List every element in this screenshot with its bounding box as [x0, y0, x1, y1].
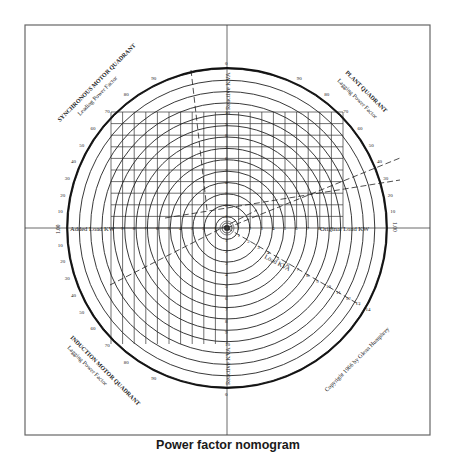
pf-tick-top-right: 60 [358, 126, 364, 131]
pf-tick-top-right: 40 [377, 159, 383, 164]
pf-tick-top-left: 70 [105, 109, 111, 114]
vertical-tick: 9 [225, 330, 228, 335]
center-target [224, 225, 230, 231]
right-kw-tick: 1 [237, 226, 240, 231]
left-axis-label: Added Load KW [70, 225, 116, 232]
pf-tick-bottom-left: 50 [79, 310, 85, 315]
pf-tick-top-right: 70 [343, 109, 349, 114]
pf-tick-top-left: 40 [71, 159, 77, 164]
vertical-tick: 3 [225, 261, 228, 266]
right-axis-label: Original Load KW [320, 225, 370, 232]
left-axis-end: 1.00 [55, 224, 61, 234]
pf-tick-top-right: 10 [390, 209, 396, 214]
vertical-tick: 8 [225, 319, 228, 324]
vertical-tick: 10 [225, 342, 231, 347]
pf-tick-top-right: 30 [383, 176, 389, 181]
reactive-kva-label-bottom: Reactive KVA [224, 347, 231, 385]
left-kw-tick: 7 [144, 226, 147, 231]
pf-tick-top-left: 30 [65, 176, 71, 181]
power-factor-nomogram: 1122334455667788991010123456789123456789… [0, 0, 456, 461]
pf-tick-top-left: 20 [60, 193, 66, 198]
left-kw-tick: 8 [133, 226, 136, 231]
pf-tick-top-right: 80 [324, 92, 330, 97]
right-kw-tick: 7 [307, 226, 310, 231]
right-kw-tick: 2 [249, 226, 252, 231]
vertical-tick: 5 [225, 168, 228, 173]
pf-tick-top-left: 10 [58, 209, 64, 214]
construction-line [110, 210, 257, 285]
bottom-zero: 0 [225, 392, 228, 397]
pf-tick-top-left: 80 [124, 92, 130, 97]
right-kw-tick: 3 [260, 226, 263, 231]
pf-tick-top-right: 90 [297, 76, 303, 81]
right-kw-tick: 5 [284, 226, 287, 231]
pf-tick-top-left: 60 [90, 126, 96, 131]
pf-tick-bottom-left: 40 [71, 293, 77, 298]
right-axis-end: 1.00 [392, 222, 398, 232]
pf-tick-top-right: 20 [388, 193, 394, 198]
load-kva-tick: 14 [365, 307, 371, 312]
pf-tick-bottom-left: 70 [105, 343, 111, 348]
copyright-text: Copyright 1966 by Glenn Humphrey [323, 326, 390, 393]
right-kw-tick: 6 [295, 226, 298, 231]
pf-tick-top-right: 50 [369, 143, 375, 148]
vertical-tick: 1 [225, 238, 228, 243]
pf-tick-bottom-left: 30 [65, 276, 71, 281]
construction-line [165, 180, 400, 218]
vertical-tick: 7 [225, 145, 228, 150]
pf-tick-bottom-left: 60 [90, 326, 96, 331]
right-kw-tick: 4 [272, 226, 275, 231]
pf-tick-bottom-left: 90 [151, 376, 157, 381]
left-kw-tick: 2 [202, 226, 205, 231]
vertical-tick: 2 [225, 249, 228, 254]
load-kva-tick: 9 [316, 279, 319, 284]
vertical-tick: 6 [225, 156, 228, 161]
quadrant-top-left-title: SYNCHRONOUS MOTOR QUADRANT [56, 42, 136, 122]
pf-tick-bottom-left: 10 [58, 243, 64, 248]
pf-tick-bottom-left: 80 [124, 360, 130, 365]
top-zero: 0 [225, 61, 228, 66]
figure-caption: Power factor nomogram [0, 438, 456, 452]
pf-tick-top-left: 90 [151, 76, 157, 81]
reactive-kva-label-top: Reactive KVA [224, 72, 231, 110]
pf-tick-top-left: 50 [79, 143, 85, 148]
load-kva-tick: 13 [356, 301, 362, 306]
left-kw-tick: 9 [121, 226, 124, 231]
pf-tick-bottom-left: 20 [60, 259, 66, 264]
